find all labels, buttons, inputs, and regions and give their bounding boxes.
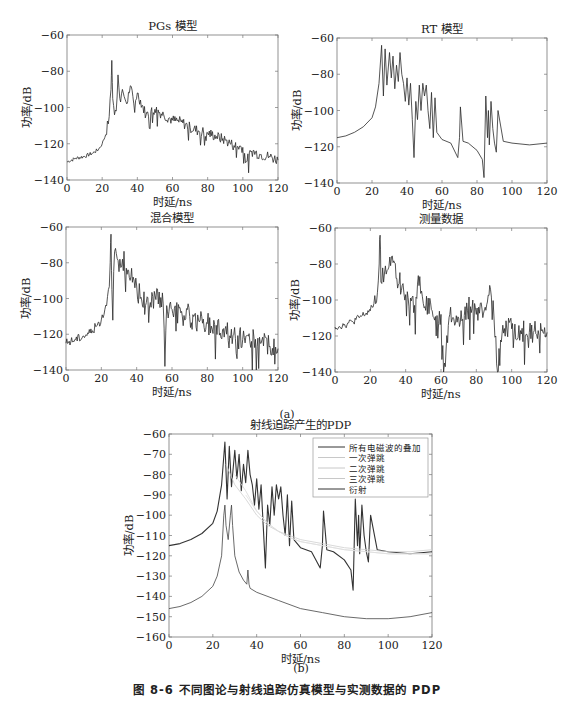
- x-tick-label: 40: [400, 185, 414, 198]
- legend: 所有电磁波的叠加一次弹跳二次弹跳三次弹跳衍射: [313, 438, 428, 497]
- x-tick-label: 100: [232, 182, 253, 195]
- sublabel-b: (b): [170, 662, 432, 675]
- x-tick-label: 120: [537, 374, 558, 387]
- chart-title: 混合模型: [150, 211, 194, 225]
- x-tick-label: 80: [201, 182, 215, 195]
- legend-entry: 二次弹跳: [349, 464, 385, 474]
- x-tick-label: 0: [334, 185, 341, 198]
- figure-caption: 图 8-6 不同图论与射线追踪仿真模型与实测数据的 PDP: [0, 681, 574, 697]
- x-tick-label: 80: [337, 639, 351, 652]
- x-tick-label: 40: [130, 182, 144, 195]
- y-tick-label: −140: [304, 177, 334, 190]
- y-tick-label: −80: [311, 68, 334, 81]
- chart-title: PGs 模型: [148, 19, 196, 33]
- chart-hybrid: 020406080100120−60−80−100−120−140混合模型时延/…: [19, 211, 289, 399]
- series-line: [66, 234, 278, 370]
- x-tick-label: 20: [206, 639, 220, 652]
- y-tick-label: −140: [33, 364, 63, 377]
- y-tick-label: −110: [136, 530, 166, 543]
- x-tick-label: 80: [200, 372, 214, 385]
- y-axis-label: 功率/dB: [288, 279, 302, 321]
- x-tick-label: 0: [332, 374, 339, 387]
- x-tick-label: 40: [250, 639, 264, 652]
- y-tick-label: −140: [136, 590, 166, 603]
- y-tick-label: −60: [309, 222, 332, 235]
- y-tick-label: −120: [136, 550, 166, 563]
- y-axis-label: 功率/dB: [19, 278, 33, 320]
- x-tick-label: 100: [378, 639, 399, 652]
- y-tick-label: −80: [40, 257, 63, 270]
- y-tick-label: −80: [309, 258, 332, 271]
- x-tick-label: 80: [469, 374, 483, 387]
- chart-rt: 020406080100120−60−80−100−120−140RT 模型时延…: [290, 22, 558, 212]
- series-line: [335, 235, 547, 372]
- y-axis-label: 功率/dB: [20, 87, 34, 129]
- x-tick-label: 60: [434, 374, 448, 387]
- x-tick-label: 60: [165, 372, 179, 385]
- x-tick-label: 120: [268, 182, 289, 195]
- legend-entry: 一次弹跳: [349, 453, 385, 463]
- series-line: [169, 505, 432, 619]
- y-tick-label: −90: [143, 489, 166, 502]
- x-tick-label: 100: [501, 374, 522, 387]
- y-tick-label: −100: [304, 105, 334, 118]
- plot-frame: [67, 35, 278, 180]
- y-axis-label: 功率/dB: [290, 90, 304, 132]
- x-axis-label: 时延/ns: [422, 198, 461, 212]
- series-line: [337, 45, 547, 177]
- x-tick-label: 40: [130, 372, 144, 385]
- x-tick-label: 60: [294, 639, 308, 652]
- y-tick-label: −60: [143, 428, 166, 441]
- y-tick-label: −60: [41, 29, 64, 42]
- plot-frame: [335, 228, 547, 372]
- y-tick-label: −150: [136, 611, 166, 624]
- y-tick-label: −100: [33, 293, 63, 306]
- plot-frame: [337, 38, 547, 183]
- x-tick-label: 20: [94, 372, 108, 385]
- x-tick-label: 40: [399, 374, 413, 387]
- legend-entry: 所有电磁波的叠加: [349, 443, 421, 453]
- x-axis-label: 时延/ns: [152, 385, 191, 399]
- chart-pgs: 020406080100120−60−80−100−120−140PGs 模型时…: [20, 19, 289, 209]
- plot-frame: [66, 227, 278, 370]
- x-tick-label: 100: [232, 372, 253, 385]
- figure-canvas: 020406080100120−60−80−100−120−140PGs 模型时…: [0, 0, 574, 701]
- x-tick-label: 20: [363, 374, 377, 387]
- y-tick-label: −140: [302, 366, 332, 379]
- y-tick-label: −60: [311, 32, 334, 45]
- x-axis-label: 时延/ns: [421, 387, 460, 401]
- y-axis-label: 功率/dB: [122, 515, 136, 557]
- legend-entry: 三次弹跳: [349, 474, 385, 484]
- x-tick-label: 120: [422, 639, 443, 652]
- x-tick-label: 80: [470, 185, 484, 198]
- y-tick-label: −140: [34, 174, 64, 187]
- y-tick-label: −100: [302, 294, 332, 307]
- x-tick-label: 0: [64, 182, 71, 195]
- x-tick-label: 60: [166, 182, 180, 195]
- x-tick-label: 120: [537, 185, 558, 198]
- y-tick-label: −120: [34, 138, 64, 151]
- y-tick-label: −160: [136, 631, 166, 644]
- y-tick-label: −130: [136, 570, 166, 583]
- y-tick-label: −120: [33, 328, 63, 341]
- y-tick-label: −100: [34, 102, 64, 115]
- y-tick-label: −100: [136, 509, 166, 522]
- x-tick-label: 20: [95, 182, 109, 195]
- x-tick-label: 0: [63, 372, 70, 385]
- x-tick-label: 120: [268, 372, 289, 385]
- x-tick-label: 20: [365, 185, 379, 198]
- sublabel-a: (a): [0, 408, 574, 421]
- y-tick-label: −80: [143, 469, 166, 482]
- x-tick-label: 60: [435, 185, 449, 198]
- legend-entry: 衍射: [349, 485, 367, 495]
- series-line: [67, 60, 278, 172]
- x-axis-label: 时延/ns: [153, 195, 192, 209]
- chart-rt_pdp: 020406080100120−60−70−80−90−100−110−120−…: [122, 418, 443, 666]
- y-tick-label: −70: [143, 448, 166, 461]
- x-tick-label: 0: [166, 639, 173, 652]
- chart-title: RT 模型: [421, 22, 463, 36]
- x-tick-label: 100: [502, 185, 523, 198]
- y-tick-label: −80: [41, 65, 64, 78]
- chart-measured: 020406080100120−60−80−100−120−140测量数据时延/…: [288, 212, 558, 401]
- chart-title: 测量数据: [419, 212, 464, 226]
